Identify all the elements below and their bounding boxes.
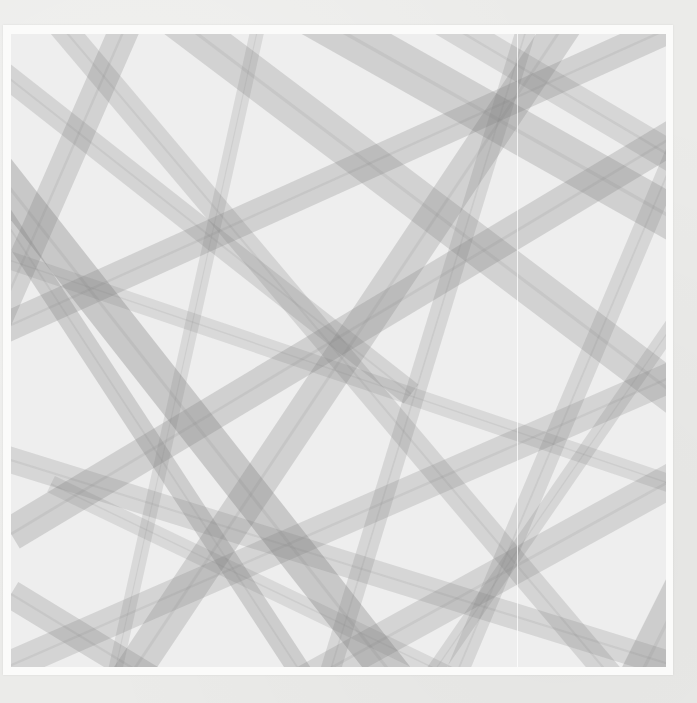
- paper-crease: [517, 34, 518, 667]
- band-pattern: [11, 34, 666, 667]
- abstract-artwork: [11, 34, 666, 667]
